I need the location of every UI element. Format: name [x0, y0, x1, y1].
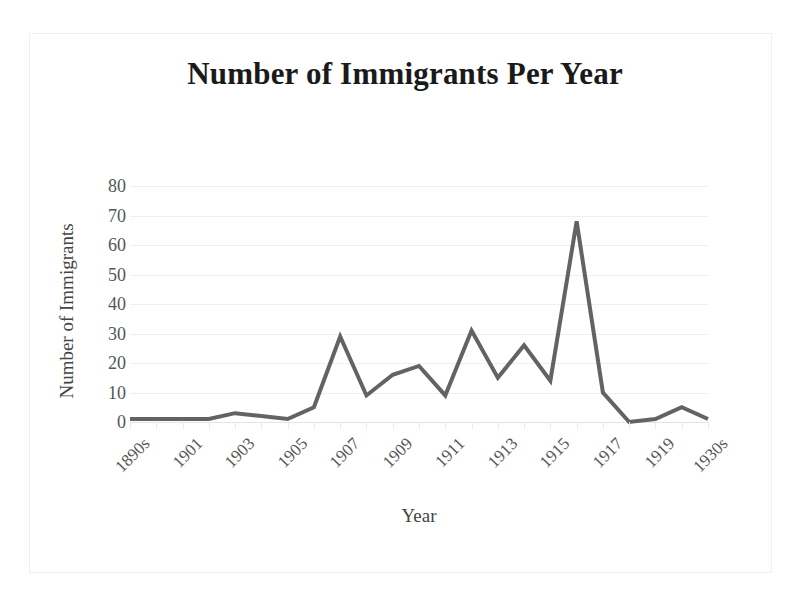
x-tick-1920s — [682, 422, 683, 429]
x-tick-1930s — [708, 422, 709, 429]
x-tick-1914 — [524, 422, 525, 429]
x-tick-1909 — [393, 422, 394, 429]
x-tick-1916 — [577, 422, 578, 429]
y-tick-label-30: 30 — [108, 324, 126, 344]
x-tick-1918 — [629, 422, 630, 429]
x-tick-1908 — [366, 422, 367, 429]
y-tick-label-80: 80 — [108, 176, 126, 196]
x-axis-ticks — [130, 422, 708, 432]
y-tick-label-20: 20 — [108, 353, 126, 373]
x-tick-1904 — [261, 422, 262, 429]
x-tick-1907 — [340, 422, 341, 429]
y-tick-label-50: 50 — [108, 265, 126, 285]
y-axis-title: Number of Immigrants — [56, 186, 76, 436]
series-line-number-of-immigrants — [130, 221, 708, 422]
x-tick-1913 — [498, 422, 499, 429]
x-tick-1917 — [603, 422, 604, 429]
x-tick-1903 — [235, 422, 236, 429]
y-tick-label-0: 0 — [117, 412, 126, 432]
y-tick-label-70: 70 — [108, 206, 126, 226]
x-tick-1912 — [472, 422, 473, 429]
y-tick-label-40: 40 — [108, 294, 126, 314]
data-line-series — [130, 186, 708, 422]
y-axis-tick-labels: 80706050403020100 — [96, 176, 126, 432]
x-axis-title: Year — [130, 505, 708, 527]
y-tick-label-10: 10 — [108, 383, 126, 403]
chart-title: Number of Immigrants Per Year — [90, 55, 720, 93]
x-tick-1915 — [550, 422, 551, 429]
y-tick-label-60: 60 — [108, 235, 126, 255]
x-tick-1906 — [314, 422, 315, 429]
x-tick-1901 — [183, 422, 184, 429]
x-tick-1900 — [156, 422, 157, 429]
x-tick-1910 — [419, 422, 420, 429]
x-tick-1902 — [209, 422, 210, 429]
x-tick-1890s — [130, 422, 131, 429]
x-tick-1911 — [445, 422, 446, 429]
x-tick-1905 — [288, 422, 289, 429]
chart-figure: Number of Immigrants Per Year 8070605040… — [0, 0, 809, 607]
x-tick-1919 — [655, 422, 656, 429]
